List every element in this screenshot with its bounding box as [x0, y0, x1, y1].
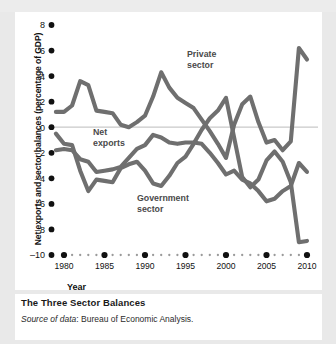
- x-tick-label: 2000: [216, 261, 235, 271]
- y-tick-dot: [49, 252, 55, 258]
- y-axis-ticks: 86420–2–4–6–8–10: [30, 20, 54, 260]
- y-tick-dot: [49, 22, 55, 28]
- y-tick-dot: [49, 124, 55, 130]
- figure-source-text: : Bureau of Economic Analysis.: [76, 314, 193, 324]
- series-label-government-sector-line2: sector: [137, 204, 164, 214]
- x-axis-minor-dot: [241, 254, 243, 256]
- x-axis-major-dot: [101, 252, 107, 258]
- x-axis-minor-dot: [168, 254, 170, 256]
- x-tick-label: 1980: [54, 261, 73, 271]
- x-axis-minor-dot: [209, 254, 211, 256]
- y-tick-label: 8: [40, 20, 45, 30]
- y-tick-dot: [49, 175, 55, 181]
- x-axis-major-dot: [182, 252, 188, 258]
- x-axis-tick-labels: 1980198519901995200020052010: [54, 261, 316, 271]
- figure-source-prefix: Source of data: [21, 314, 76, 324]
- x-axis-major-dot: [61, 252, 67, 258]
- series-label-net-exports-line1: Net: [93, 127, 107, 137]
- y-tick-label: –4: [35, 174, 45, 184]
- x-axis-minor-dot: [152, 254, 154, 256]
- y-tick-label: 4: [40, 72, 45, 82]
- series-label-private-sector-line2: sector: [187, 60, 214, 70]
- figure-caption-area: The Three Sector Balances Source of data…: [15, 294, 322, 340]
- x-tick-label: 1990: [135, 261, 154, 271]
- x-axis-minor-dot: [71, 254, 73, 256]
- series-label-net-exports-line2: exports: [93, 138, 125, 148]
- x-axis-dot-row: [61, 252, 310, 258]
- x-axis-minor-dot: [282, 254, 284, 256]
- x-tick-label: 1995: [176, 261, 195, 271]
- x-axis-minor-dot: [95, 254, 97, 256]
- x-tick-label: 2010: [297, 261, 316, 271]
- y-tick-label: 6: [40, 46, 45, 56]
- x-axis-minor-dot: [192, 254, 194, 256]
- x-tick-label: 2005: [257, 261, 276, 271]
- y-tick-label: –10: [30, 250, 45, 260]
- x-axis-minor-dot: [201, 254, 203, 256]
- x-axis-major-dot: [304, 252, 310, 258]
- x-axis-major-dot: [223, 252, 229, 258]
- x-axis-minor-dot: [249, 254, 251, 256]
- y-tick-label: –2: [35, 148, 45, 158]
- x-axis-minor-dot: [298, 254, 300, 256]
- x-axis-minor-dot: [111, 254, 113, 256]
- x-axis-minor-dot: [160, 254, 162, 256]
- y-tick-label: 0: [40, 123, 45, 133]
- x-axis-minor-dot: [290, 254, 292, 256]
- x-axis-minor-dot: [217, 254, 219, 256]
- chart-plot-area: 86420–2–4–6–8–10 19801985199019952000200…: [15, 12, 322, 290]
- x-axis-minor-dot: [257, 254, 259, 256]
- figure-root: Net exports and sector balances (percent…: [0, 0, 336, 344]
- y-tick-dot: [49, 227, 55, 233]
- x-axis-major-dot: [263, 252, 269, 258]
- y-tick-dot: [49, 73, 55, 79]
- x-tick-label: 1985: [95, 261, 114, 271]
- y-tick-dot: [49, 150, 55, 156]
- chart-panel: Net exports and sector balances (percent…: [15, 12, 322, 290]
- figure-source: Source of data: Bureau of Economic Analy…: [21, 314, 193, 324]
- y-tick-dot: [49, 48, 55, 54]
- x-axis-minor-dot: [273, 254, 275, 256]
- y-tick-dot: [49, 201, 55, 207]
- series-label-government-sector-line1: Government: [137, 193, 189, 203]
- x-axis-minor-dot: [79, 254, 81, 256]
- x-axis-minor-dot: [136, 254, 138, 256]
- x-axis-minor-dot: [120, 254, 122, 256]
- x-axis-minor-dot: [87, 254, 89, 256]
- x-axis-major-dot: [142, 252, 148, 258]
- y-tick-label: –8: [35, 225, 45, 235]
- y-tick-label: –6: [35, 199, 45, 209]
- y-tick-label: 2: [40, 97, 45, 107]
- x-axis-minor-dot: [233, 254, 235, 256]
- x-axis-minor-dot: [128, 254, 130, 256]
- series-label-private-sector-line1: Private: [187, 49, 216, 59]
- figure-title: The Three Sector Balances: [21, 297, 145, 308]
- x-axis-minor-dot: [176, 254, 178, 256]
- y-tick-dot: [49, 99, 55, 105]
- top-background-strip: [0, 0, 336, 12]
